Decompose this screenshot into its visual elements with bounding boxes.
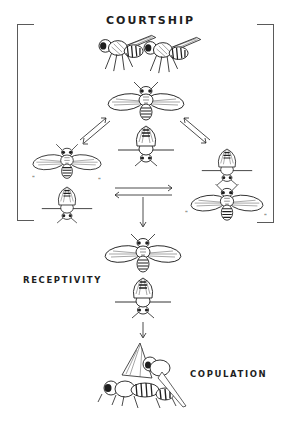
- arrow-receptivity-to-copulation: [140, 322, 146, 338]
- fly-pair-top-center: [107, 82, 185, 120]
- svg-text:": ": [98, 176, 101, 183]
- arrow-courtship-to-receptivity: [140, 197, 146, 227]
- double-arrow-center-left: [80, 118, 110, 144]
- fly-pair-left: [32, 144, 102, 178]
- svg-text:": ": [32, 174, 35, 181]
- svg-text:": ": [264, 212, 267, 219]
- fly-pair-receptivity: [104, 234, 182, 272]
- diagram-illustration: " " " ": [0, 0, 291, 423]
- double-arrow-center-right: [180, 118, 210, 143]
- svg-text:": ": [185, 209, 188, 216]
- double-arrow-left-right: [115, 185, 172, 198]
- fly-pair-copulating: [98, 343, 186, 408]
- fly-pair-right: [202, 149, 252, 185]
